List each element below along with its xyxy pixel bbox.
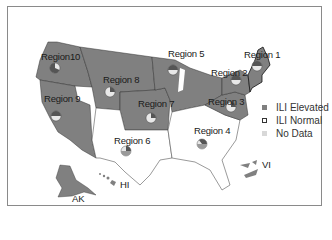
region-6-label: Region 6 bbox=[114, 136, 150, 146]
elevated-swatch-icon bbox=[262, 105, 267, 110]
region-10-pie bbox=[50, 63, 60, 73]
region-1-label: Region 1 bbox=[244, 50, 280, 60]
legend-label: ILI Elevated bbox=[276, 102, 329, 113]
legend-item-normal: ILI Normal bbox=[262, 114, 329, 127]
region-7-label: Region 7 bbox=[138, 99, 174, 109]
region-10-label: Region10 bbox=[41, 52, 80, 62]
region-7-pie bbox=[146, 113, 156, 123]
hawaii-label: HI bbox=[120, 180, 129, 190]
region-6-pie bbox=[121, 146, 131, 156]
region-9-area[interactable] bbox=[40, 80, 96, 158]
region-5-label: Region 5 bbox=[168, 49, 204, 59]
legend-item-no-data: No Data bbox=[262, 127, 329, 140]
region-2-label: Region 2 bbox=[211, 68, 247, 78]
hawaii-area[interactable] bbox=[99, 173, 116, 186]
no-data-swatch-icon bbox=[262, 131, 267, 136]
region-5-pie bbox=[168, 65, 178, 75]
region-7-area[interactable] bbox=[120, 88, 170, 130]
region-1-pie bbox=[252, 61, 262, 71]
legend-label: No Data bbox=[276, 128, 313, 139]
alaska-label: AK bbox=[72, 194, 84, 204]
region-8-label: Region 8 bbox=[103, 75, 139, 85]
region-9-pie bbox=[51, 111, 61, 121]
legend-item-elevated: ILI Elevated bbox=[262, 101, 329, 114]
region-8-pie bbox=[105, 87, 115, 97]
normal-swatch-icon bbox=[262, 118, 267, 123]
virgin-islands-label: VI bbox=[262, 160, 271, 170]
region-4-pie bbox=[197, 139, 207, 149]
virgin-islands-area[interactable] bbox=[240, 160, 258, 178]
region-3-label: Region 3 bbox=[208, 97, 244, 107]
region-4-label: Region 4 bbox=[194, 126, 230, 136]
legend-label: ILI Normal bbox=[276, 115, 322, 126]
region-9-label: Region 9 bbox=[44, 94, 80, 104]
legend: ILI Elevated ILI Normal No Data bbox=[262, 101, 329, 140]
